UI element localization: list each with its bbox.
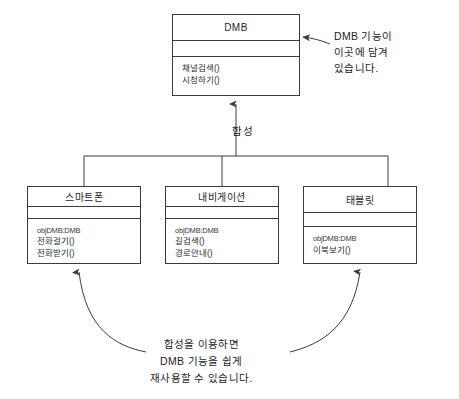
operation-item: 전화걸기() [37, 236, 131, 248]
class-operations-smartphone: objDMB:DMB 전화걸기() 전화받기() [28, 219, 140, 264]
relationship-label-composition: 합성 [232, 123, 253, 138]
annotation-top-note: DMB 기능이 이곳에 담겨 있습니다. [334, 28, 392, 76]
class-name-tablet: 태블릿 [304, 187, 416, 213]
annotation-bottom-note: 합성을 이용하면 DMB 기능을 쉽게 재사용할 수 있습니다. [150, 336, 252, 387]
class-box-tablet[interactable]: 태블릿 objDMB:DMB 이북보기() [303, 186, 417, 264]
class-operations-navigation: objDMB:DMB 길검색() 경로안내() [166, 219, 278, 264]
class-operations-tablet: objDMB:DMB 이북보기() [304, 227, 416, 263]
class-name-navigation: 내비게이션 [166, 187, 278, 207]
top-note-leader [303, 37, 330, 44]
class-attributes-tablet [304, 213, 416, 227]
class-name-dmb: DMB [173, 15, 299, 41]
operation-item: objDMB:DMB [37, 225, 131, 237]
annotation-line: 재사용할 수 있습니다. [150, 370, 252, 387]
operation-item: 길검색() [175, 236, 269, 248]
operation-item: 이북보기() [313, 245, 407, 257]
bottom-note-arrow-right [290, 272, 360, 352]
bottom-note-arrow-left [79, 272, 146, 352]
annotation-line: 이곳에 담겨 [334, 44, 392, 60]
class-box-navigation[interactable]: 내비게이션 objDMB:DMB 길검색() 경로안내() [165, 186, 279, 264]
operation-item: 시청하기() [182, 75, 290, 87]
class-name-smartphone: 스마트폰 [28, 187, 140, 207]
diagram-canvas: DMB 채널검색() 시청하기() 스마트폰 objDMB:DMB 전화걸기()… [0, 0, 459, 399]
operation-item: 경로안내() [175, 248, 269, 260]
class-attributes-navigation [166, 207, 278, 218]
operation-item: 채널검색() [182, 63, 290, 75]
annotation-line: DMB 기능이 [334, 28, 392, 44]
annotation-line: 있습니다. [334, 60, 392, 76]
class-attributes-dmb [173, 41, 299, 57]
class-operations-dmb: 채널검색() 시청하기() [173, 57, 299, 95]
operation-item: objDMB:DMB [313, 233, 407, 245]
annotation-line: DMB 기능을 쉽게 [150, 353, 252, 370]
operation-item: 전화받기() [37, 248, 131, 260]
class-attributes-smartphone [28, 207, 140, 218]
annotation-line: 합성을 이용하면 [150, 336, 252, 353]
class-box-smartphone[interactable]: 스마트폰 objDMB:DMB 전화걸기() 전화받기() [27, 186, 141, 264]
class-box-dmb[interactable]: DMB 채널검색() 시청하기() [172, 14, 300, 96]
operation-item: objDMB:DMB [175, 225, 269, 237]
